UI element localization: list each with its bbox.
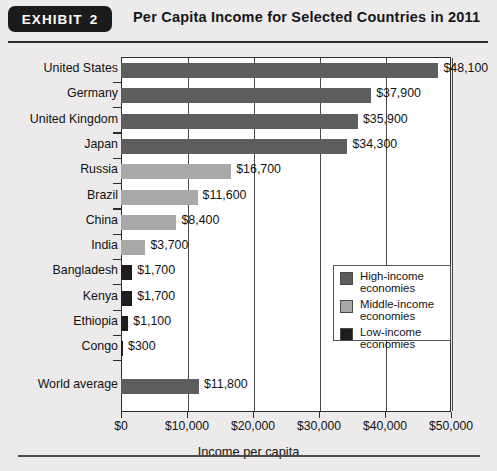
y-axis-label: Germany bbox=[0, 86, 118, 100]
y-axis-label: United States bbox=[0, 61, 118, 75]
y-axis-tick bbox=[113, 132, 121, 133]
y-axis-tick bbox=[113, 259, 121, 260]
bar-value-label: $35,900 bbox=[363, 112, 408, 126]
bar bbox=[121, 114, 358, 129]
bar bbox=[121, 291, 132, 306]
y-axis-tick bbox=[113, 234, 121, 235]
bar-row: $16,700 bbox=[121, 159, 451, 184]
bar bbox=[121, 164, 231, 179]
bar-row: $3,700 bbox=[121, 235, 451, 260]
x-axis-tick-label: $10,000 bbox=[165, 419, 209, 433]
exhibit-badge-number: 2 bbox=[90, 12, 99, 27]
x-axis-tick-label: $0 bbox=[114, 419, 128, 433]
bar-value-label: $48,100 bbox=[443, 61, 488, 75]
y-axis-tick bbox=[113, 335, 121, 336]
x-axis-tick-label: $30,000 bbox=[297, 419, 341, 433]
x-axis-ticks bbox=[121, 412, 451, 419]
exhibit-figure: EXHIBIT 2 Per Capita Income for Selected… bbox=[0, 0, 497, 471]
bar bbox=[121, 265, 132, 280]
gridline bbox=[452, 58, 453, 411]
legend-label: Middle-incomeeconomies bbox=[360, 299, 434, 323]
y-axis-tick bbox=[113, 107, 121, 108]
x-axis-tick-label: $50,000 bbox=[429, 419, 473, 433]
exhibit-title: Per Capita Income for Selected Countries… bbox=[133, 9, 480, 25]
bar-row: $34,300 bbox=[121, 134, 451, 159]
x-axis-tick bbox=[385, 412, 386, 418]
y-axis-label: Brazil bbox=[0, 188, 118, 202]
bar-chart: United StatesGermanyUnited KingdomJapanR… bbox=[0, 46, 497, 426]
legend-item: Low-incomeeconomies bbox=[340, 327, 450, 351]
y-axis-labels: United StatesGermanyUnited KingdomJapanR… bbox=[0, 57, 118, 412]
y-axis-tick bbox=[113, 310, 121, 311]
y-axis-label: Bangladesh bbox=[0, 263, 118, 277]
legend-item: High-incomeeconomies bbox=[340, 271, 450, 295]
legend-label: High-incomeeconomies bbox=[360, 271, 424, 295]
x-axis-tick bbox=[187, 412, 188, 418]
y-axis-tick bbox=[113, 183, 121, 184]
bar bbox=[121, 240, 145, 255]
x-axis-tick-label: $40,000 bbox=[363, 419, 407, 433]
x-axis-tick bbox=[451, 412, 452, 418]
x-axis-tick-label: $20,000 bbox=[231, 419, 275, 433]
exhibit-header: EXHIBIT 2 Per Capita Income for Selected… bbox=[0, 0, 497, 44]
legend-label: Low-incomeeconomies bbox=[360, 327, 421, 351]
legend-swatch bbox=[340, 328, 353, 341]
y-axis-tick bbox=[113, 158, 121, 159]
bar-row: $37,900 bbox=[121, 83, 451, 108]
chart-legend: High-incomeeconomiesMiddle-incomeeconomi… bbox=[333, 265, 451, 341]
footer-divider bbox=[18, 455, 480, 457]
bar-value-label: $34,300 bbox=[352, 137, 397, 151]
y-axis-label: China bbox=[0, 213, 118, 227]
bar bbox=[121, 139, 347, 154]
bar-row: $8,400 bbox=[121, 210, 451, 235]
y-axis-label: Ethiopia bbox=[0, 314, 118, 328]
x-axis-tick-labels: $0$10,000$20,000$30,000$40,000$50,000 bbox=[0, 419, 497, 437]
header-divider bbox=[8, 41, 488, 43]
legend-swatch bbox=[340, 300, 353, 313]
bar bbox=[121, 88, 371, 103]
bar bbox=[121, 341, 123, 356]
legend-item: Middle-incomeeconomies bbox=[340, 299, 450, 323]
bar-value-label: $16,700 bbox=[236, 162, 281, 176]
x-axis-tick bbox=[319, 412, 320, 418]
bar-value-label: $37,900 bbox=[376, 86, 421, 100]
bar bbox=[121, 215, 176, 230]
y-axis-label: Congo bbox=[0, 339, 118, 353]
bar-value-label: $1,100 bbox=[133, 314, 171, 328]
y-axis-label: Russia bbox=[0, 162, 118, 176]
y-axis-tick bbox=[113, 82, 121, 83]
bar-value-label: $1,700 bbox=[137, 289, 175, 303]
bar-rows: $48,100$37,900$35,900$34,300$16,700$11,6… bbox=[121, 57, 451, 412]
y-axis-tick bbox=[113, 284, 121, 285]
y-axis-label: Japan bbox=[0, 137, 118, 151]
bar-value-label: $11,800 bbox=[204, 377, 248, 391]
bar bbox=[121, 379, 199, 394]
bar bbox=[121, 63, 438, 78]
bar bbox=[121, 316, 128, 331]
bar-value-label: $8,400 bbox=[181, 213, 219, 227]
y-axis-tick bbox=[113, 208, 121, 209]
x-axis-title: Income per capita bbox=[0, 444, 497, 459]
y-axis-label: India bbox=[0, 238, 118, 252]
exhibit-badge-label: EXHIBIT bbox=[22, 12, 83, 27]
bar-row: $11,800 bbox=[121, 374, 451, 399]
bar-value-label: $11,600 bbox=[203, 188, 247, 202]
x-axis-tick bbox=[253, 412, 254, 418]
y-axis-tick bbox=[113, 360, 121, 361]
y-axis-label: World average bbox=[0, 377, 118, 391]
bar-value-label: $300 bbox=[128, 339, 156, 353]
y-axis-label: United Kingdom bbox=[0, 112, 118, 126]
exhibit-badge: EXHIBIT 2 bbox=[8, 6, 112, 32]
bar-row: $35,900 bbox=[121, 109, 451, 134]
x-axis-tick bbox=[121, 412, 122, 418]
bar bbox=[121, 190, 198, 205]
bar-row: $48,100 bbox=[121, 58, 451, 83]
y-axis-label: Kenya bbox=[0, 289, 118, 303]
bar-row: $11,600 bbox=[121, 185, 451, 210]
legend-swatch bbox=[340, 272, 353, 285]
bar-value-label: $3,700 bbox=[150, 238, 188, 252]
bar-value-label: $1,700 bbox=[137, 263, 175, 277]
